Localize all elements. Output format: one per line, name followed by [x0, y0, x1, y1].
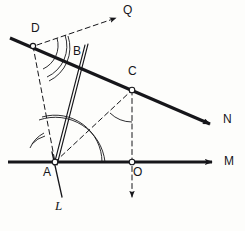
arc-at-A-small-2 [30, 133, 44, 148]
ray-label-L: L [55, 199, 62, 212]
ray-label-N: N [223, 113, 232, 125]
line-A-to-B-right [57, 44, 88, 165]
arc-at-C [110, 113, 132, 122]
point-marker-D [30, 43, 35, 48]
thick-ray-group [8, 38, 212, 162]
point-label-C: C [128, 65, 137, 77]
point-marker-C [129, 87, 135, 93]
ray-label-M: M [224, 155, 234, 167]
point-marker-O [129, 159, 135, 165]
point-marker-group [30, 43, 134, 164]
thin-solid-lines [52, 44, 88, 197]
point-label-D: D [31, 22, 40, 34]
point-label-O: O [133, 166, 142, 178]
geometry-figure: D B C A O M N Q L [0, 0, 245, 231]
ray-L-below-A [52, 152, 62, 197]
ray-label-Q: Q [123, 4, 132, 16]
dashed-segment-D-to-A [33, 46, 55, 162]
point-label-A: A [43, 166, 51, 178]
dashed-ray-D-to-Q [37, 18, 116, 45]
point-label-B: B [73, 45, 81, 57]
point-marker-A [52, 159, 58, 165]
